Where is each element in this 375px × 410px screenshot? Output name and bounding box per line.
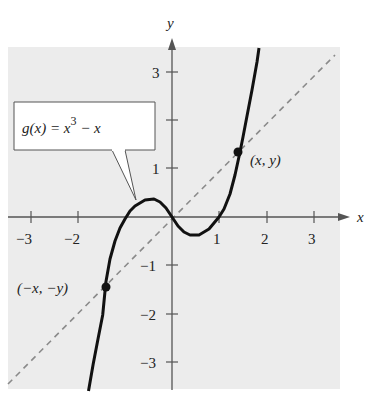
y-axis-label: y — [165, 15, 174, 31]
point-x-y — [234, 148, 243, 157]
point-label-pos: (x, y) — [250, 152, 281, 169]
y-tick-label: −1 — [140, 258, 156, 274]
y-tick-label: −3 — [140, 355, 156, 371]
point-neg-x-neg-y — [102, 283, 111, 292]
y-tick-label: 1 — [152, 161, 160, 177]
x-tick-label: 1 — [213, 231, 221, 247]
x-tick-label: 3 — [308, 231, 316, 247]
point-label-neg: (−x, −y) — [17, 280, 68, 297]
x-tick-label: −2 — [64, 231, 80, 247]
chart-figure: y x −3 −2 1 2 3 3 1 −1 −2 −3 (x, y) (−x,… — [0, 0, 375, 410]
x-tick-label: 2 — [261, 231, 269, 247]
x-tick-label: −3 — [16, 231, 32, 247]
x-axis-label: x — [356, 209, 364, 225]
y-axis-arrow-icon — [168, 38, 176, 50]
y-tick-label: 3 — [152, 65, 160, 81]
y-tick-label: −2 — [140, 307, 156, 323]
x-axis-arrow-icon — [338, 213, 350, 221]
callout-tail: − x — [76, 120, 101, 136]
callout-g: g(x) = — [22, 120, 64, 137]
